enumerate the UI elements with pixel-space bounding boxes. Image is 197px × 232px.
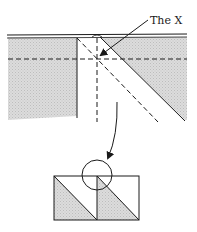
bottom-figure (54, 160, 139, 220)
shaded-paper-left (8, 37, 77, 120)
fold-notch (92, 35, 102, 37)
top-figure: The X (7, 14, 187, 122)
annotation-label: The X (150, 14, 182, 27)
origami-diagram: The X (0, 0, 197, 232)
curved-arrow (108, 102, 117, 158)
